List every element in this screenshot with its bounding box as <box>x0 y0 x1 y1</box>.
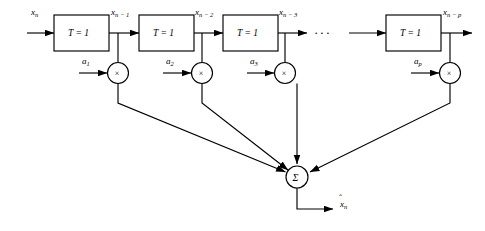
delay-block-p-label: T = 1 <box>400 28 421 38</box>
delayed-signal-p-label: xn − p <box>443 8 461 17</box>
delayed-signal-1-label: xn − 1 <box>111 8 129 17</box>
multiplier-2-symbol: × <box>199 69 204 78</box>
coefficient-3-label: a3 <box>250 57 258 66</box>
coefficient-p-label: ap <box>414 57 422 66</box>
delay-block-2-label: T = 1 <box>153 28 174 38</box>
coefficient-2-label: a2 <box>166 57 174 66</box>
product-wire-2 <box>202 84 288 171</box>
output-wire <box>297 188 333 209</box>
output-signal-label: ̂xn <box>340 200 347 209</box>
product-wire-p <box>310 84 450 173</box>
ellipsis-label: ··· <box>314 25 332 41</box>
delay-block-3-label: T = 1 <box>237 28 258 38</box>
delayed-signal-3-label: xn − 3 <box>279 8 297 17</box>
delayed-signal-2-label: xn − 2 <box>195 8 213 17</box>
prediction-filter-diagram: xn T = 1 T = 1 T = 1 T = 1 xn − 1 xn − 2… <box>0 0 485 231</box>
summing-junction-symbol: Σ <box>293 172 299 183</box>
multiplier-3-symbol: × <box>282 69 287 78</box>
delay-block-1-label: T = 1 <box>68 28 89 38</box>
multiplier-p-symbol: × <box>447 69 452 78</box>
multiplier-1-symbol: × <box>115 69 120 78</box>
coefficient-1-label: a1 <box>82 57 90 66</box>
input-signal-label: xn <box>31 8 38 17</box>
